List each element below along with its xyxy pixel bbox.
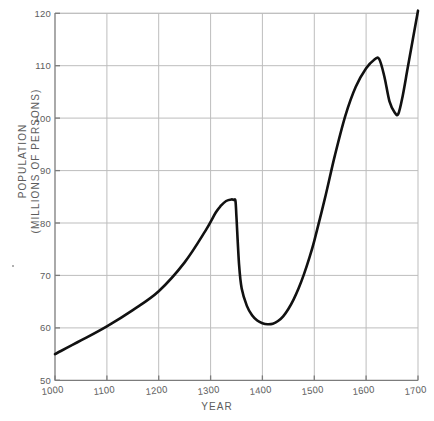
x-axis-ticks [55,375,418,380]
horizontal-gridlines [55,13,418,328]
y-axis-ticks [55,13,60,380]
y-axis-title: POPULATION (MILLIONS OF PERSONS) [16,76,42,246]
y-axis-title-line-1: POPULATION [16,76,29,246]
population-line-chart: 120 110 100 90 80 70 60 50 1000 1100 120… [0,0,434,421]
ytick-label-70: 70 [40,270,51,281]
ytick-label-120: 120 [35,8,51,19]
x-axis-title: YEAR [0,401,434,412]
y-axis-title-line-2: (MILLIONS OF PERSONS) [29,76,42,246]
ytick-label-60: 60 [40,322,51,333]
vertical-gridlines [107,13,418,380]
chart-plot-svg [0,0,434,421]
population-curve [55,11,418,354]
ytick-label-110: 110 [35,60,51,71]
